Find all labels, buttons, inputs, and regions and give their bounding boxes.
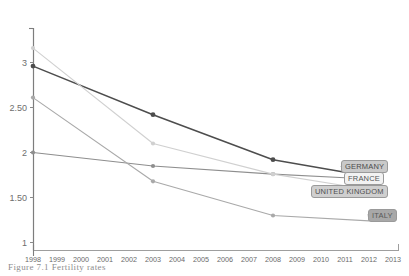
data-point-france-1998 — [31, 150, 35, 154]
y-tick-label: 1 — [22, 238, 27, 248]
x-tick-label: 2011 — [337, 255, 352, 264]
data-point-united-kingdom-2008 — [271, 172, 275, 176]
x-tick-label: 2012 — [361, 255, 377, 264]
x-tick-label: 2010 — [313, 255, 329, 264]
series-line-italy — [33, 98, 369, 221]
data-point-germany-2003 — [151, 112, 156, 117]
data-point-united-kingdom-2003 — [151, 141, 155, 145]
y-tick-label: 2.50 — [9, 103, 27, 113]
y-tick-label: 1.50 — [9, 193, 27, 203]
x-tick-label: 2008 — [265, 255, 281, 264]
series-line-france — [33, 153, 345, 178]
x-tick-label: 2009 — [289, 255, 305, 264]
data-point-italy-2008 — [271, 213, 275, 217]
line-chart-plot: 3 2.50 2 1.50 1 1998 1999 2000 2001 2002… — [0, 0, 409, 276]
y-tick-labels: 3 2.50 2 1.50 1 — [9, 58, 27, 248]
legend-label-italy[interactable]: ITALY — [368, 209, 397, 222]
legend-label-france[interactable]: FRANCE — [344, 172, 384, 185]
data-point-italy-1998 — [31, 96, 35, 100]
data-point-france-2003 — [151, 164, 155, 168]
x-tick-label: 2013 — [385, 255, 401, 264]
data-point-italy-2003 — [151, 179, 155, 183]
y-tick-label: 2 — [22, 148, 27, 158]
data-point-germany-2008 — [271, 157, 276, 162]
data-point-germany-1998 — [31, 64, 36, 69]
figure-caption: Figure 7.1 Fertility rates — [8, 262, 258, 276]
y-tick-label: 3 — [22, 58, 27, 68]
chart-container: 3 2.50 2 1.50 1 1998 1999 2000 2001 2002… — [0, 0, 409, 276]
legend-label-united-kingdom[interactable]: UNITED KINGDOM — [311, 185, 388, 198]
chart-axes — [29, 28, 399, 256]
series-line-germany — [33, 66, 345, 172]
data-point-united-kingdom-1998 — [31, 46, 35, 50]
series-line-united-kingdom — [33, 48, 345, 186]
